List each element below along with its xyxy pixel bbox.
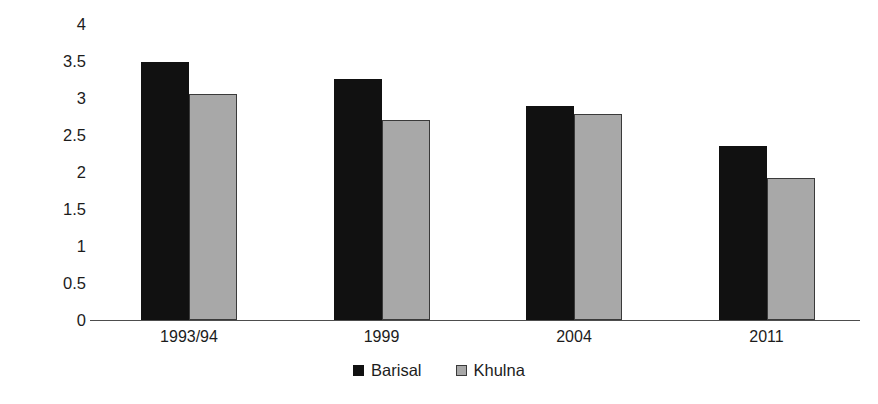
bar-barisal-1999 — [334, 79, 382, 320]
legend-item-khulna[interactable]: Khulna — [456, 361, 525, 380]
y-axis-tick-label: 0 — [40, 312, 86, 329]
legend-swatch-icon — [456, 365, 467, 376]
y-axis-tick-label: 1 — [40, 238, 86, 255]
bar-khulna-2004 — [574, 114, 622, 320]
bar-barisal-2011 — [719, 146, 767, 320]
bar-khulna-1993-94 — [189, 94, 237, 320]
y-axis-tick-label: 3 — [40, 90, 86, 107]
legend-label: Khulna — [474, 361, 525, 380]
legend-label: Barisal — [371, 361, 421, 380]
x-axis-line — [90, 320, 860, 321]
bar-group — [141, 24, 237, 320]
bar-group — [719, 24, 815, 320]
legend-swatch-icon — [353, 365, 364, 376]
bar-barisal-1993-94 — [141, 62, 189, 320]
y-axis-tick-label: 2 — [40, 164, 86, 181]
x-axis-tick-label: 2004 — [494, 328, 654, 346]
x-axis-tick-label: 1999 — [302, 328, 462, 346]
y-axis-tick-label: 3.5 — [40, 53, 86, 70]
chart-container: Total fertility rate 43.532.521.510.50 1… — [0, 0, 878, 404]
y-axis-tick-label: 4 — [40, 16, 86, 33]
bar-khulna-2011 — [767, 178, 815, 320]
y-axis-tick-label: 0.5 — [40, 275, 86, 292]
chart-legend: BarisalKhulna — [0, 361, 878, 380]
x-axis-tick-label: 2011 — [687, 328, 847, 346]
y-axis-tick-labels: 43.532.521.510.50 — [34, 0, 86, 404]
legend-item-barisal[interactable]: Barisal — [353, 361, 421, 380]
bar-group — [334, 24, 430, 320]
y-axis-tick-label: 2.5 — [40, 127, 86, 144]
bar-group — [526, 24, 622, 320]
plot-area — [90, 24, 860, 320]
bar-khulna-1999 — [382, 120, 430, 320]
x-axis-tick-label: 1993/94 — [109, 328, 269, 346]
y-axis-tick-label: 1.5 — [40, 201, 86, 218]
bar-barisal-2004 — [526, 106, 574, 320]
